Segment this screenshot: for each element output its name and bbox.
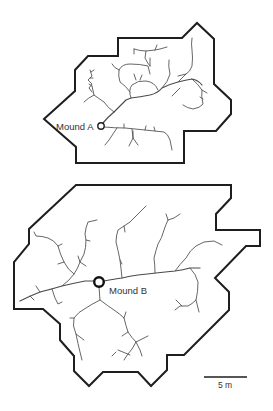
mound-a-marker — [98, 123, 104, 129]
scale-bar: 5 m — [204, 377, 247, 390]
mound-a-label: Mound A — [56, 121, 94, 132]
mound-b-marker — [94, 277, 104, 287]
gallery-network-figure: Mound A Mound B 5 m — [0, 0, 273, 411]
plot-a-channels — [84, 38, 207, 150]
plot-a-boundary — [44, 23, 231, 163]
plot-b-channels — [20, 206, 222, 360]
plot-b: Mound B — [14, 185, 260, 386]
scale-bar-label: 5 m — [218, 380, 232, 390]
mound-b-label: Mound B — [109, 285, 147, 296]
plot-a: Mound A — [44, 23, 231, 163]
